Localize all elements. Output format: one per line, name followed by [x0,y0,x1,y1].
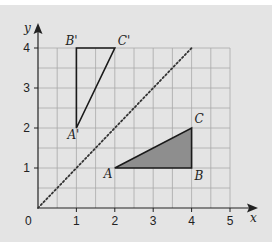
axis-labels: x y 0 [23,21,257,228]
vertex-label-b-prime: B' [64,34,77,48]
y-axis-label: y [23,21,31,35]
vertex-label-c-prime: C' [118,34,130,48]
x-tick-label: 2 [111,214,118,228]
x-axis-label: x [250,211,257,225]
vertex-label-c: C [195,112,204,126]
origin-label: 0 [25,214,32,228]
y-tick-label: 1 [23,161,30,175]
x-tick-label: 1 [73,214,80,228]
axes [34,23,259,213]
y-tick-label: 3 [23,81,30,95]
y-tick-label: 2 [23,121,30,135]
y-tick-labels: 1234 [23,41,38,175]
vertex-label-a: A [103,167,113,181]
x-tick-label: 4 [188,214,195,228]
vertex-label-b: B [194,169,204,183]
y-tick-label: 4 [23,41,30,55]
vertex-label-a-prime: A' [66,128,79,142]
x-tick-label: 5 [227,214,234,228]
x-tick-labels: 12345 [73,208,234,228]
coordinate-grid-diagram: x y 0 12345 1234 ABCA'B'C' [0,0,272,242]
x-tick-label: 3 [150,214,157,228]
